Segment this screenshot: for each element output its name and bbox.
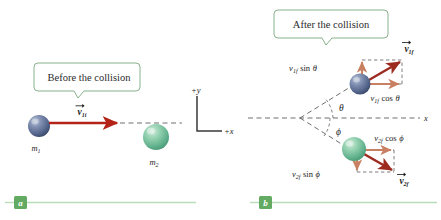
vector-v1i-label: v1i [78,107,87,118]
label-v2f-cos-phi: v2fcosϕ [374,133,404,144]
axis-end-label-x: x [423,113,428,123]
axis-label-y: +y [191,85,201,95]
mass-1-label-a: m1 [31,143,40,154]
vector-v2f-label: v2f [399,176,409,187]
panel-a-badge-label: a [18,198,23,208]
trajectory-dashed-upper [300,86,352,118]
callout-before: Before the collision [34,63,140,98]
coordinate-axes: +y +x [191,85,234,136]
mass-2-sphere-b [342,137,366,161]
panel-b-badge: b [259,196,272,209]
angle-arc-theta [326,100,333,119]
panel-a-badge: a [14,196,27,209]
mass-2-sphere-a [143,124,169,150]
panel-b-badge-label: b [263,198,268,208]
angle-label-phi: ϕ [336,127,341,137]
panel-a: Before the collision m1 v1i m2 a [5,63,196,209]
collision-figure: Before the collision m1 v1i m2 a [0,0,441,220]
mass-1-sphere-b [350,74,371,95]
callout-before-label: Before the collision [48,72,132,83]
mass-2-label-a: m2 [149,157,158,168]
axis-label-x: +x [224,126,234,136]
label-v1f-cos-theta: v1fcosθ [370,93,399,104]
angle-label-theta: θ [339,103,344,113]
vector-v1f-label: v1f [404,44,414,55]
panel-b: After the collision x θ ϕ [248,10,437,209]
label-v2f-sin-phi: v2fsinϕ [292,169,321,180]
mass-1-sphere-a [28,115,50,137]
callout-after-label: After the collision [293,19,370,30]
label-v1f-sin-theta: v1fsinθ [289,63,317,74]
callout-after: After the collision [274,10,388,45]
